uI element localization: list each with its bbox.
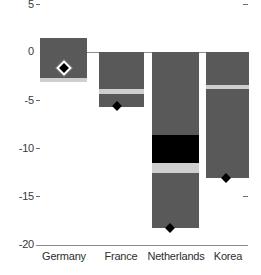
category-label-korea: Korea xyxy=(204,250,252,262)
ytick-mark-right-neg15 xyxy=(243,196,248,197)
ytick-label-5: 5 xyxy=(0,0,34,10)
ytick-label-neg5: -5 xyxy=(0,95,34,106)
bar-segment-dark-upper xyxy=(152,52,199,135)
baseline-axis-line xyxy=(36,245,248,246)
bar-segment-dark-upper xyxy=(99,52,144,89)
ytick-mark-right-5 xyxy=(243,4,248,5)
bar-germany[interactable] xyxy=(40,38,87,82)
bar-segment-dark-lower xyxy=(152,173,199,228)
category-label-germany: Germany xyxy=(36,250,92,262)
category-label-france: France xyxy=(96,250,146,262)
bar-segment-dark-upper xyxy=(206,52,249,85)
plot-area: 5 0 -5 -10 -15 -20 xyxy=(0,0,261,275)
chart-container: 5 0 -5 -10 -15 -20 xyxy=(0,0,261,275)
ytick-mark-left-neg5 xyxy=(36,100,40,101)
bar-korea[interactable] xyxy=(206,52,249,178)
bar-segment-light-band xyxy=(40,78,87,82)
category-label-netherlands: Netherlands xyxy=(146,250,206,262)
ytick-label-neg10: -10 xyxy=(0,143,34,154)
ytick-mark-left-neg10 xyxy=(36,148,40,149)
bar-france[interactable] xyxy=(99,52,144,107)
bar-segment-light-band xyxy=(152,163,199,173)
ytick-label-neg20: -20 xyxy=(0,239,34,250)
ytick-mark-left-5 xyxy=(36,4,40,5)
ytick-label-0: 0 xyxy=(0,46,34,57)
ytick-mark-left-neg15 xyxy=(36,196,40,197)
bar-segment-black-band xyxy=(152,135,199,163)
ytick-label-neg15: -15 xyxy=(0,191,34,202)
bar-netherlands[interactable] xyxy=(152,52,199,228)
bar-segment-dark-lower xyxy=(206,89,249,178)
